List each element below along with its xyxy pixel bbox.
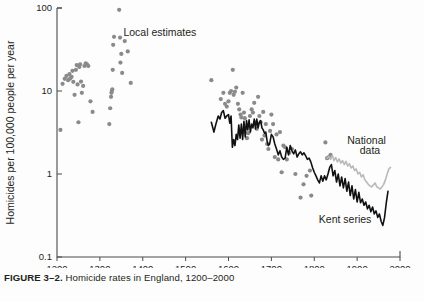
- figure-root: 1200130014001500160017001800190020000.11…: [0, 0, 424, 301]
- scatter-point: [301, 182, 305, 186]
- kent-series-label: Kent series: [319, 213, 372, 225]
- scatter-point: [225, 104, 229, 108]
- scatter-point: [261, 110, 265, 114]
- scatter-point: [243, 116, 247, 120]
- scatter-point: [256, 95, 260, 99]
- scatter-point: [226, 99, 230, 103]
- scatter-point: [111, 68, 115, 72]
- scatter-point: [74, 68, 78, 72]
- scatter-point: [126, 49, 130, 53]
- x-axis-tick-label: 1200: [46, 263, 67, 268]
- figure-caption: FIGURE 3–2. Homicide rates in England, 1…: [0, 272, 424, 301]
- scatter-point: [90, 110, 94, 114]
- scatter-point: [278, 130, 282, 134]
- scatter-point: [242, 110, 246, 114]
- local-estimates-label: Local estimates: [123, 26, 196, 38]
- caption-line: FIGURE 3–2. Homicide rates in England, 1…: [4, 272, 234, 283]
- scatter-point: [276, 157, 280, 161]
- y-axis-tick-label: 0.1: [39, 251, 52, 262]
- scatter-point: [123, 39, 127, 43]
- scatter-point: [280, 170, 284, 174]
- scatter-point: [60, 82, 64, 86]
- x-axis-tick-label: 1900: [347, 263, 368, 268]
- scatter-point: [118, 35, 122, 39]
- x-axis-tick-label: 1800: [304, 263, 325, 268]
- scatter-point: [78, 62, 82, 66]
- scatter-point: [76, 120, 80, 124]
- scatter-point: [251, 110, 255, 114]
- scatter-point: [323, 140, 327, 144]
- x-axis-tick-label: 1500: [175, 263, 196, 268]
- scatter-point: [231, 68, 235, 72]
- scatter-point: [69, 75, 73, 79]
- scatter-point: [120, 71, 124, 75]
- scatter-point: [219, 97, 223, 101]
- scatter-point: [260, 137, 264, 141]
- scatter-point: [298, 195, 302, 199]
- scatter-point: [119, 52, 123, 56]
- scatter-point: [257, 114, 261, 118]
- scatter-point: [248, 114, 252, 118]
- scatter-point: [80, 91, 84, 95]
- scatter-point: [108, 106, 112, 110]
- scatter-point: [118, 60, 122, 64]
- scatter-point: [58, 128, 62, 132]
- scatter-point: [71, 80, 75, 84]
- scatter-point: [264, 122, 268, 126]
- scatter-point: [75, 82, 79, 86]
- y-axis-tick-label: 10: [41, 85, 52, 96]
- homicide-rates-chart: 1200130014001500160017001800190020000.11…: [0, 0, 424, 268]
- scatter-point: [241, 91, 245, 95]
- scatter-point: [88, 99, 92, 103]
- scatter-point: [86, 64, 90, 68]
- x-axis-tick-label: 1300: [89, 263, 110, 268]
- scatter-point: [234, 85, 238, 89]
- scatter-point: [308, 168, 312, 172]
- scatter-point: [252, 101, 256, 105]
- scatter-point: [229, 89, 233, 93]
- x-axis-tick-label: 1400: [132, 263, 153, 268]
- scatter-point: [111, 43, 115, 47]
- scatter-point: [110, 87, 114, 91]
- series-national-data: [327, 155, 390, 189]
- x-axis-tick-label: 2000: [389, 263, 410, 268]
- series-line: [327, 155, 390, 189]
- scatter-point: [129, 81, 133, 85]
- scatter-point: [269, 112, 273, 116]
- scatter-point: [266, 147, 270, 151]
- chart-plot-area: 1200130014001500160017001800190020000.11…: [0, 0, 424, 268]
- y-axis-title: Homicides per 100,000 people per year: [4, 40, 16, 224]
- y-axis-tick-label: 100: [36, 2, 52, 13]
- scatter-point: [304, 174, 308, 178]
- scatter-point: [112, 35, 116, 39]
- scatter-point: [237, 107, 241, 111]
- scatter-point: [268, 129, 272, 133]
- scatter-point: [273, 155, 277, 159]
- scatter-point: [117, 8, 121, 12]
- scatter-point: [209, 78, 213, 82]
- scatter-point: [221, 91, 225, 95]
- caption-body: Homicide rates in England, 1200–2000: [65, 272, 234, 283]
- scatter-point: [81, 84, 85, 88]
- scatter-point: [233, 90, 237, 94]
- national-data-label-line2: data: [360, 144, 381, 156]
- x-axis-tick-label: 1600: [218, 263, 239, 268]
- scatter-point: [107, 122, 111, 126]
- scatter-point: [236, 102, 240, 106]
- scatter-point: [79, 79, 83, 83]
- scatter-point: [309, 193, 313, 197]
- scatter-point: [109, 95, 113, 99]
- y-axis-tick-label: 1: [47, 168, 52, 179]
- series-line: [211, 111, 388, 226]
- scatter-point: [271, 122, 275, 126]
- scatter-point: [72, 93, 76, 97]
- scatter-point: [293, 172, 297, 176]
- scatter-point: [274, 132, 278, 136]
- series-kent-series: [211, 111, 388, 226]
- caption-figure-number: FIGURE 3–2.: [4, 272, 63, 283]
- x-axis-tick-label: 1700: [261, 263, 282, 268]
- series-group: [58, 8, 390, 226]
